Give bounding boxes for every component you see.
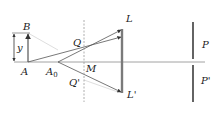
label-y: y [16,42,23,53]
label-q: Q [73,37,81,48]
ray-q-to-l [84,37,121,47]
label-q-prime: Q' [69,77,80,88]
construction-line-b [28,33,58,50]
label-l-prime: L' [126,89,136,100]
label-a0: A0 [45,66,58,79]
label-p: P [201,39,209,50]
construction-line-q-prime [84,80,118,92]
label-b: B [22,21,30,32]
label-a: A [20,66,28,77]
label-l: L [125,13,133,24]
label-m: M [85,63,97,74]
ray-a0-to-l [58,30,121,62]
optics-diagram: B y A A0 Q M Q' L L' P P' [0,0,220,116]
label-p-prime: P' [200,75,210,86]
ray-a-to-q [28,47,84,62]
